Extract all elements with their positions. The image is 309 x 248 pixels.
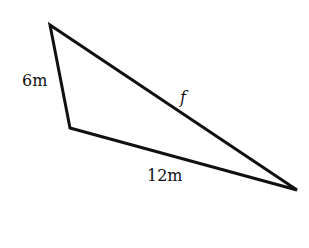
side-label-left: 6m xyxy=(22,71,47,90)
side-label-hypotenuse: f xyxy=(179,88,189,107)
side-label-bottom: 12m xyxy=(147,166,183,185)
triangle-diagram: 6m f 12m xyxy=(0,0,309,248)
